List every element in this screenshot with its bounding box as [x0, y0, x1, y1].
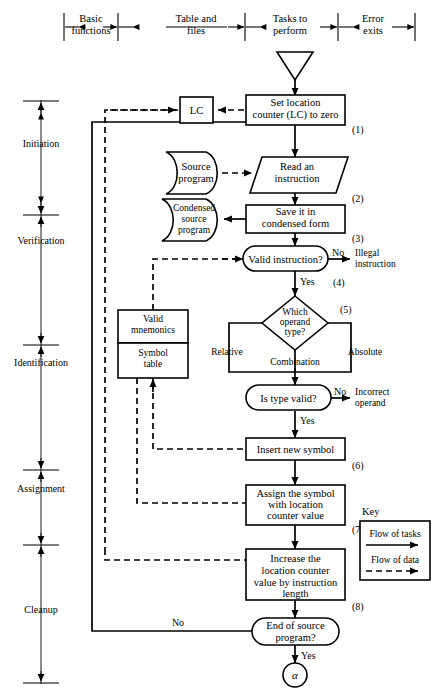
valid-mnemonics-line1: Valid [143, 314, 163, 324]
valid-instruction-label: Valid instruction? [248, 254, 323, 265]
phase-initiation-label: Initiation [23, 138, 60, 149]
read-instruction-line1: Read an [280, 161, 315, 172]
end-of-source-line1: End of source [266, 620, 325, 631]
header-label-error-exits: Error exits [362, 13, 385, 36]
end-of-source-no: No [172, 617, 184, 628]
legend-key: Key Flow of tasks Flow of data [360, 506, 430, 580]
set-lc-line2: counter (LC) to zero [252, 109, 338, 121]
node-incorrect-operand-exit: Incorrect operand [355, 387, 390, 408]
flowchart-canvas: Basic functions Table and files Tasks to… [0, 0, 434, 700]
header-label-basic-functions: Basic functions [71, 13, 110, 36]
source-program-line1: Source [181, 161, 210, 172]
header-label-tasks-to-perform: Tasks to perform [273, 13, 308, 36]
assign-symbol-line1: Assign the symbol [256, 488, 334, 499]
assign-symbol-line2: with location [268, 499, 324, 510]
phase-label-assignment: Assignment [17, 483, 65, 494]
branch-label-absolute: Absolute [348, 347, 382, 357]
node-lc-table[interactable]: LC [180, 97, 213, 123]
flowchart-svg: Basic functions Table and files Tasks to… [0, 0, 434, 700]
header-tasks-to-perform-line1: Tasks to [273, 13, 308, 24]
is-type-valid-label: Is type valid? [260, 393, 317, 404]
increase-lc-line4: length [282, 588, 309, 599]
legend-title: Key [362, 506, 380, 517]
incorrect-line2: operand [355, 398, 386, 408]
valid-mnemonics-line2: mnemonics [131, 325, 175, 335]
valid-instruction-yes: Yes [300, 276, 315, 287]
condensed-line3: program [178, 225, 211, 235]
end-of-source-yes: Yes [301, 650, 316, 661]
set-lc-step: (1) [352, 124, 364, 136]
assign-symbol-line3: counter value [267, 510, 324, 521]
valid-instruction-no: No [332, 247, 344, 258]
which-operand-step: (5) [340, 304, 352, 316]
start-connector [277, 52, 313, 80]
save-line1: Save it in [276, 206, 316, 217]
insert-symbol-label: Insert new symbol [257, 444, 335, 455]
phase-assignment-label: Assignment [17, 483, 65, 494]
node-increase-location-counter[interactable]: Increase the location counter value by i… [246, 549, 364, 613]
end-of-source-line2: program? [275, 632, 316, 643]
increase-lc-line1: Increase the [270, 553, 321, 564]
which-operand-line1: Which [282, 307, 308, 317]
is-type-valid-no: No [334, 386, 346, 397]
source-program-line2: program [178, 173, 214, 184]
lc-table-label: LC [190, 105, 203, 116]
branch-label-relative: Relative [211, 347, 243, 357]
node-valid-instruction-decision[interactable]: Valid instruction? No Yes (4) [243, 246, 345, 289]
phase-cleanup-label: Cleanup [24, 604, 57, 615]
node-save-it-in-condensed-form[interactable]: Save it in condensed form (3) [246, 205, 364, 245]
phase-verification-label: Verification [17, 235, 64, 246]
legend-flow-of-tasks-label: Flow of tasks [369, 529, 421, 539]
header-label-table-and-files: Table and files [176, 13, 218, 36]
node-assign-symbol[interactable]: Assign the symbol with location counter … [246, 485, 364, 536]
node-end-of-source-program-decision[interactable]: End of source program? No Yes [172, 617, 339, 661]
phase-axis [23, 100, 59, 684]
header-error-exits-line2: exits [363, 25, 383, 36]
read-instruction-line2: instruction [275, 173, 321, 184]
header-table-and-files-line2: files [187, 25, 205, 36]
which-operand-line3: type? [285, 327, 306, 337]
illegal-line2: instruction [355, 259, 396, 269]
increase-lc-line3: value by instruction [254, 577, 338, 588]
is-type-valid-yes: Yes [300, 415, 315, 426]
node-is-type-valid-decision[interactable]: Is type valid? No Yes [246, 385, 346, 426]
read-instruction-step: (2) [352, 193, 364, 205]
node-read-an-instruction[interactable]: Read an instruction (2) [250, 157, 364, 205]
phase-label-initiation: Initiation [23, 138, 60, 149]
insert-symbol-step: (6) [352, 460, 364, 472]
node-insert-new-symbol[interactable]: Insert new symbol (6) [246, 438, 364, 472]
header-table-and-files-line1: Table and [176, 13, 218, 24]
illegal-line1: Illegal [355, 248, 380, 258]
valid-instruction-step: (4) [333, 277, 345, 289]
node-alpha-connector: α [283, 663, 307, 687]
phase-label-verification: Verification [17, 235, 64, 246]
node-symbol-table[interactable]: Symbol table [118, 343, 188, 378]
node-source-program-file[interactable]: Source program [166, 152, 217, 194]
save-line2: condensed form [262, 218, 329, 229]
alpha-connector-label: α [292, 669, 298, 681]
phase-identification-label: Identification [14, 357, 68, 368]
phase-label-cleanup: Cleanup [24, 604, 57, 615]
header-tasks-to-perform-line2: perform [273, 25, 307, 36]
which-operand-line2: operand [280, 317, 311, 327]
increase-lc-line2: location counter [262, 565, 330, 576]
symbol-table-line2: table [144, 359, 162, 369]
incorrect-line1: Incorrect [355, 387, 390, 397]
node-condensed-source-program-file[interactable]: Condensed source program [162, 199, 217, 241]
symbol-table-line1: Symbol [138, 348, 168, 358]
node-valid-mnemonics-table[interactable]: Valid mnemonics [118, 310, 188, 343]
branch-label-combination: Combination [270, 357, 320, 367]
header-basic-functions-line1: Basic [79, 13, 103, 24]
increase-lc-step: (8) [352, 601, 364, 613]
condensed-line1: Condensed [173, 203, 215, 213]
set-lc-line1: Set location [271, 97, 322, 108]
phase-label-identification: Identification [14, 357, 68, 368]
header-error-exits-line1: Error [362, 13, 385, 24]
node-set-location-counter[interactable]: Set location counter (LC) to zero (1) [246, 95, 364, 136]
node-illegal-instruction-exit: Illegal instruction [355, 248, 396, 269]
header-basic-functions-line2: functions [71, 25, 110, 36]
legend-flow-of-data-label: Flow of data [371, 555, 420, 565]
save-step: (3) [352, 233, 364, 245]
condensed-line2: source [182, 214, 207, 224]
